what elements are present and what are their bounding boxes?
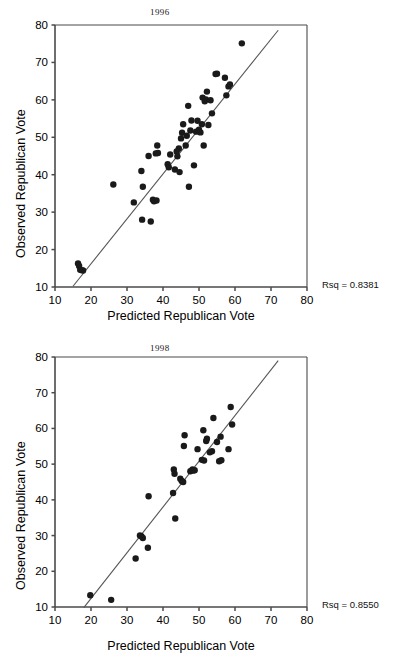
data-point: [166, 164, 172, 170]
x-tick-label: 20: [85, 614, 98, 626]
data-point: [204, 436, 210, 442]
data-point: [145, 153, 151, 159]
data-point: [188, 117, 194, 123]
x-tick-label: 70: [265, 614, 278, 626]
y-tick-label: 30: [35, 206, 48, 218]
data-point: [199, 121, 205, 127]
y-tick-label: 30: [35, 530, 48, 542]
data-point: [138, 168, 144, 174]
data-point: [227, 404, 233, 410]
x-tick-label: 40: [157, 614, 170, 626]
y-tick-label: 40: [35, 169, 48, 181]
x-tick-label: 60: [229, 614, 242, 626]
data-point: [181, 432, 187, 438]
data-point: [110, 181, 116, 187]
x-tick-label: 10: [49, 614, 62, 626]
data-point: [191, 467, 197, 473]
data-point: [172, 515, 178, 521]
data-point: [180, 479, 186, 485]
x-tick-label: 50: [193, 294, 206, 306]
y-tick-label: 10: [35, 281, 48, 293]
x-tick-label: 60: [229, 294, 242, 306]
data-point: [187, 127, 193, 133]
data-point: [155, 150, 161, 156]
data-point: [87, 592, 93, 598]
figure-1996: 1996 Observed Republican Vote 1020304050…: [0, 0, 409, 340]
y-tick-label: 60: [35, 422, 48, 434]
data-point: [201, 457, 207, 463]
data-point: [225, 446, 231, 452]
y-tick-label: 40: [35, 494, 48, 506]
data-point: [200, 142, 206, 148]
data-point: [181, 443, 187, 449]
data-point: [132, 555, 138, 561]
data-point: [186, 183, 192, 189]
data-point: [210, 415, 216, 421]
data-point: [176, 169, 182, 175]
data-point: [170, 490, 176, 496]
data-point: [182, 142, 188, 148]
data-point: [209, 110, 215, 116]
y-tick-label: 10: [35, 601, 48, 613]
rsq-annotation-1998: Rsq = 0.8550: [322, 599, 379, 610]
y-tick-label: 50: [35, 458, 48, 470]
data-point-group: [87, 404, 235, 603]
data-point: [140, 535, 146, 541]
x-tick-label: 50: [193, 614, 206, 626]
data-point: [191, 162, 197, 168]
data-point: [145, 545, 151, 551]
data-point: [214, 439, 220, 445]
scatter-plot-1998: 10203040506070801020304050607080: [0, 334, 409, 664]
data-point: [200, 427, 206, 433]
y-tick-label: 70: [35, 56, 48, 68]
y-tick-label: 80: [35, 351, 48, 363]
data-point: [217, 433, 223, 439]
y-tick-label: 70: [35, 387, 48, 399]
data-point: [222, 75, 228, 81]
data-point: [180, 121, 186, 127]
x-tick-label: 70: [265, 294, 278, 306]
y-tick-label: 50: [35, 131, 48, 143]
data-point: [194, 446, 200, 452]
data-point: [185, 103, 191, 109]
y-tick-label: 20: [35, 565, 48, 577]
data-point: [131, 199, 137, 205]
x-tick-label: 80: [301, 614, 314, 626]
data-point: [80, 267, 86, 273]
x-tick-label: 80: [301, 294, 314, 306]
data-point: [205, 122, 211, 128]
data-point: [204, 88, 210, 94]
data-point: [207, 97, 213, 103]
rsq-annotation-1996: Rsq = 0.8381: [322, 279, 379, 290]
data-point: [229, 421, 235, 427]
data-point: [108, 597, 114, 603]
data-point: [178, 135, 184, 141]
x-tick-label: 30: [121, 294, 134, 306]
figure-1998: 1998 Observed Republican Vote 1020304050…: [0, 334, 409, 664]
x-axis-label-1996: Predicted Republican Vote: [55, 309, 307, 323]
data-point: [184, 133, 190, 139]
data-point: [140, 183, 146, 189]
data-point: [197, 129, 203, 135]
x-tick-label: 40: [157, 294, 170, 306]
x-tick-label: 20: [85, 294, 98, 306]
y-tick-label: 80: [35, 19, 48, 31]
data-point: [176, 145, 182, 151]
y-tick-label: 20: [35, 244, 48, 256]
data-point: [153, 197, 159, 203]
data-point: [227, 81, 233, 87]
data-point: [214, 70, 220, 76]
y-tick-label: 60: [35, 94, 48, 106]
data-point: [171, 471, 177, 477]
data-point: [223, 92, 229, 98]
data-point: [145, 493, 151, 499]
data-point: [167, 151, 173, 157]
data-point: [139, 216, 145, 222]
data-point: [174, 153, 180, 159]
x-tick-label: 30: [121, 614, 134, 626]
data-point: [239, 40, 245, 46]
data-point: [209, 448, 215, 454]
data-point: [154, 142, 160, 148]
data-point: [148, 218, 154, 224]
data-point: [218, 457, 224, 463]
